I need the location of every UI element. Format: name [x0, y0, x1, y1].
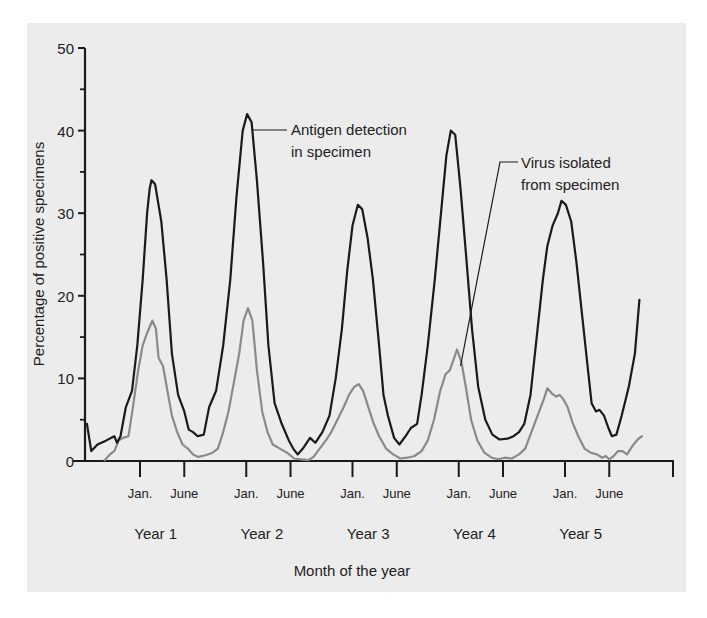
x-tick-label: June — [489, 486, 517, 501]
y-tick-label: 40 — [57, 123, 74, 140]
x-tick-label: June — [383, 486, 411, 501]
virus-annotation-text: Virus isolated — [521, 154, 611, 171]
virus-leader-line — [461, 162, 518, 366]
x-tick-label: June — [170, 486, 198, 501]
year-label: Year 5 — [559, 525, 602, 542]
antigen-annotation-text: Antigen detection — [291, 121, 407, 138]
x-tick-label: June — [595, 486, 623, 501]
x-tick-label: June — [276, 486, 304, 501]
annotations: Antigen detectionin specimenVirus isolat… — [253, 121, 620, 366]
y-tick-label: 20 — [57, 288, 74, 305]
virus-annotation-text: from specimen — [521, 176, 619, 193]
x-axis: Jan.JuneJan.JuneJan.JuneJan.JuneJan.June… — [73, 461, 674, 542]
y-tick-label: 0 — [66, 453, 74, 470]
x-tick-label: Jan. — [128, 486, 153, 501]
y-axis-title: Percentage of positive specimens — [30, 142, 47, 366]
x-axis-title: Month of the year — [294, 562, 411, 579]
year-label: Year 3 — [347, 525, 390, 542]
x-tick-label: Jan. — [340, 486, 365, 501]
y-tick-label: 10 — [57, 370, 74, 387]
x-tick-label: Jan. — [553, 486, 578, 501]
line-chart: 01020304050 Jan.JuneJan.JuneJan.JuneJan.… — [0, 0, 707, 618]
y-axis: 01020304050 — [57, 40, 85, 470]
virus-isolated-line — [105, 308, 642, 460]
x-tick-label: Jan. — [446, 486, 471, 501]
antigen-annotation-text: in specimen — [291, 143, 371, 160]
year-label: Year 4 — [453, 525, 496, 542]
x-tick-label: Jan. — [234, 486, 259, 501]
year-label: Year 1 — [134, 525, 177, 542]
year-label: Year 2 — [241, 525, 284, 542]
y-tick-label: 50 — [57, 40, 74, 57]
y-tick-label: 30 — [57, 205, 74, 222]
